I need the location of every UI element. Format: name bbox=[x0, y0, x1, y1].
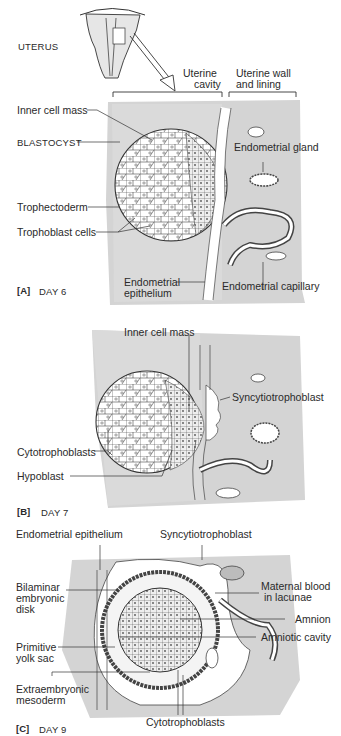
panel-a-day: DAY 6 bbox=[39, 286, 67, 298]
label-amniotic-cavity: Amniotic cavity bbox=[261, 631, 331, 643]
panel-c-tag: [C] bbox=[16, 723, 29, 735]
label-primitive-yolk-sac-2: yolk sac bbox=[16, 652, 54, 664]
label-endometrial-gland: Endometrial gland bbox=[234, 141, 319, 153]
label-cytotrophoblasts-b: Cytotrophoblasts bbox=[17, 446, 96, 458]
label-uterine-wall-2: and lining bbox=[236, 78, 281, 90]
label-bilaminar-3: disk bbox=[16, 603, 35, 615]
panel-a-tag: [A] bbox=[17, 285, 30, 297]
label-extraembryonic-2: mesoderm bbox=[16, 694, 66, 706]
label-syncytiotrophoblast-c: Syncytiotrophoblast bbox=[160, 528, 252, 540]
label-endometrial-capillary: Endometrial capillary bbox=[222, 280, 319, 292]
label-inner-cell-mass: Inner cell mass bbox=[17, 104, 88, 116]
label-trophectoderm: Trophectoderm bbox=[17, 201, 88, 213]
arrow-icon bbox=[130, 33, 175, 91]
label-endometrial-epithelium-c: Endometrial epithelium bbox=[16, 528, 123, 540]
panel-b-tag: [B] bbox=[17, 506, 30, 518]
label-endometrial-epithelium-2: epithelium bbox=[124, 287, 172, 299]
label-maternal-blood-2: in lacunae bbox=[264, 591, 312, 603]
panel-b-day: DAY 7 bbox=[41, 507, 69, 519]
label-uterine-cavity-2: cavity bbox=[194, 78, 221, 90]
label-cytotrophoblasts-c: Cytotrophoblasts bbox=[146, 716, 225, 728]
label-hypoblast: Hypoblast bbox=[17, 470, 64, 482]
label-trophoblast-cells: Trophoblast cells bbox=[17, 226, 96, 238]
label-syncytiotrophoblast-b: Syncytiotrophoblast bbox=[232, 391, 324, 403]
label-blastocyst: BLASTOCYST bbox=[17, 137, 82, 149]
panel-c-day: DAY 9 bbox=[39, 724, 67, 736]
label-uterus: UTERUS bbox=[18, 41, 58, 53]
label-amnion: Amnion bbox=[295, 613, 331, 625]
label-inner-cell-mass-b: Inner cell mass bbox=[124, 326, 195, 338]
